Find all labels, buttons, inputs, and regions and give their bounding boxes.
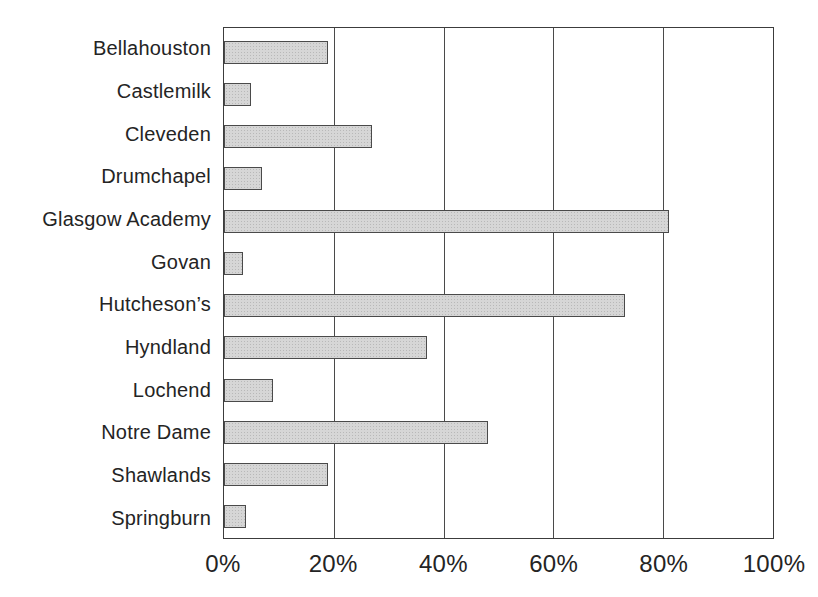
x-tick-label-0: 0% xyxy=(205,548,240,580)
x-tick-label-80: 80% xyxy=(639,548,688,580)
category-label-hutcheson-s: Hutcheson’s xyxy=(99,294,211,314)
bar-glasgow-academy xyxy=(224,210,669,233)
bar-row xyxy=(224,242,773,284)
category-label-row: Bellahouston xyxy=(0,27,211,70)
category-label-notre-dame: Notre Dame xyxy=(101,422,211,442)
bar-series xyxy=(224,28,773,538)
bar-row xyxy=(224,73,773,115)
bar-row xyxy=(224,158,773,200)
category-label-row: Lochend xyxy=(0,368,211,411)
x-axis-labels: 0%20%40%60%80%100% xyxy=(223,548,774,580)
bar-hutcheson-s xyxy=(224,294,625,317)
category-label-row: Notre Dame xyxy=(0,411,211,454)
bar-springburn xyxy=(224,505,246,528)
category-label-springburn: Springburn xyxy=(111,508,211,528)
plot-area xyxy=(223,27,774,539)
bar-row xyxy=(224,454,773,496)
bar-row xyxy=(224,327,773,369)
bar-row xyxy=(224,411,773,453)
bar-govan xyxy=(224,252,243,275)
y-axis-labels: BellahoustonCastlemilkClevedenDrumchapel… xyxy=(0,27,211,539)
bar-row xyxy=(224,285,773,327)
category-label-castlemilk: Castlemilk xyxy=(117,81,211,101)
bar-shawlands xyxy=(224,463,328,486)
bar-hyndland xyxy=(224,336,427,359)
bar-drumchapel xyxy=(224,167,262,190)
bar-row xyxy=(224,200,773,242)
bar-row xyxy=(224,116,773,158)
bar-row xyxy=(224,496,773,538)
category-label-row: Hyndland xyxy=(0,326,211,369)
category-label-drumchapel: Drumchapel xyxy=(101,166,211,186)
category-label-glasgow-academy: Glasgow Academy xyxy=(42,209,211,229)
category-label-row: Castlemilk xyxy=(0,70,211,113)
bar-lochend xyxy=(224,379,273,402)
bar-bellahouston xyxy=(224,41,328,64)
category-label-row: Cleveden xyxy=(0,112,211,155)
category-label-row: Springburn xyxy=(0,496,211,539)
bar-row xyxy=(224,31,773,73)
category-label-shawlands: Shawlands xyxy=(111,465,211,485)
bar-cleveden xyxy=(224,125,372,148)
x-tick-label-40: 40% xyxy=(419,548,468,580)
school-percentage-bar-chart: BellahoustonCastlemilkClevedenDrumchapel… xyxy=(0,0,818,597)
category-label-hyndland: Hyndland xyxy=(125,337,211,357)
category-label-cleveden: Cleveden xyxy=(125,124,211,144)
bar-castlemilk xyxy=(224,83,251,106)
category-label-lochend: Lochend xyxy=(133,380,211,400)
x-tick-label-20: 20% xyxy=(309,548,358,580)
x-tick-label-100: 100% xyxy=(743,548,806,580)
category-label-row: Hutcheson’s xyxy=(0,283,211,326)
category-label-row: Drumchapel xyxy=(0,155,211,198)
category-label-bellahouston: Bellahouston xyxy=(93,38,211,58)
bar-notre-dame xyxy=(224,421,488,444)
x-tick-label-60: 60% xyxy=(529,548,578,580)
category-label-govan: Govan xyxy=(151,252,211,272)
bar-row xyxy=(224,369,773,411)
category-label-row: Glasgow Academy xyxy=(0,198,211,241)
category-label-row: Govan xyxy=(0,240,211,283)
category-label-row: Shawlands xyxy=(0,454,211,497)
